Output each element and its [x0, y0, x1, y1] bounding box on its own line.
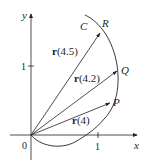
- point-label-q: Q: [121, 64, 129, 76]
- y-tick-label: 1: [21, 61, 26, 72]
- origin-label: 0: [22, 140, 27, 151]
- point-label-p: P: [112, 96, 120, 108]
- x-axis-label: x: [133, 139, 139, 151]
- vector-label-r-4-5: r(4.5): [52, 45, 78, 58]
- vector-arg: (4.5): [57, 45, 78, 58]
- vector-r-4: [31, 103, 110, 135]
- vector-label-r-4: r(4): [72, 114, 90, 127]
- x-tick-label: 1: [95, 141, 100, 152]
- y-axis-label: y: [21, 9, 27, 21]
- point-label-r: R: [101, 17, 109, 29]
- vector-curve-diagram: y x 0 1 1 C R Q P r(4.5) r(4.2) r(4): [0, 0, 148, 161]
- curve-label-c: C: [80, 20, 88, 32]
- vector-arg: (4.2): [79, 72, 100, 85]
- vector-arg: (4): [77, 114, 90, 127]
- vector-label-r-4-2: r(4.2): [74, 72, 100, 85]
